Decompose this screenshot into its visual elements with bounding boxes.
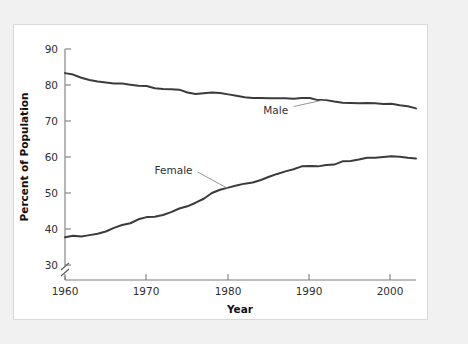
series-label-female: Female (155, 164, 193, 176)
series-line-female (65, 156, 416, 237)
x-axis-title: Year (226, 303, 254, 315)
y-tick-label-60: 60 (45, 151, 58, 163)
x-tick-label-1960: 1960 (52, 285, 79, 297)
female-leader-line (198, 172, 229, 189)
figure-root: 90 80 70 60 50 40 30 1960 1970 1980 1990… (0, 0, 468, 344)
male-leader-line (294, 99, 327, 106)
x-tick-label-1970: 1970 (133, 285, 160, 297)
y-tick-label-90: 90 (45, 43, 58, 55)
y-tick-label-80: 80 (45, 79, 58, 91)
y-tick-label-30: 30 (45, 259, 58, 271)
x-axis-ticks (65, 274, 390, 280)
y-tick-label-40: 40 (45, 223, 58, 235)
series-line-male (65, 73, 416, 108)
y-tick-label-70: 70 (45, 115, 58, 127)
x-tick-label-1980: 1980 (215, 285, 242, 297)
line-chart: 90 80 70 60 50 40 30 1960 1970 1980 1990… (14, 25, 427, 319)
y-axis-ticks (65, 49, 71, 265)
x-tick-label-1990: 1990 (296, 285, 323, 297)
chart-panel: 90 80 70 60 50 40 30 1960 1970 1980 1990… (13, 24, 428, 320)
y-axis-title: Percent of Population (18, 93, 30, 222)
y-tick-label-50: 50 (45, 187, 58, 199)
x-tick-label-2000: 2000 (377, 285, 404, 297)
series-label-male: Male (263, 104, 288, 116)
